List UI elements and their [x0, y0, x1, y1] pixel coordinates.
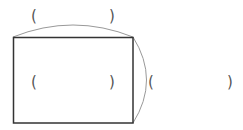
right-width-arc — [133, 37, 147, 123]
area-blank-close-paren: ) — [109, 75, 115, 90]
top-length-arc — [13, 25, 133, 37]
top-blank-close-paren: ) — [109, 9, 115, 24]
side-blank-close-paren: ) — [227, 75, 233, 90]
top-blank-open-paren: ( — [31, 9, 37, 24]
side-blank-open-paren: ( — [148, 75, 154, 90]
area-blank-open-paren: ( — [31, 75, 37, 90]
